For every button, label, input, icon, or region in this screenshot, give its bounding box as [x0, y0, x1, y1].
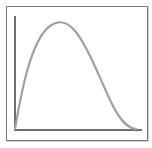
data-curve — [15, 22, 136, 129]
chart-plot — [0, 0, 152, 148]
